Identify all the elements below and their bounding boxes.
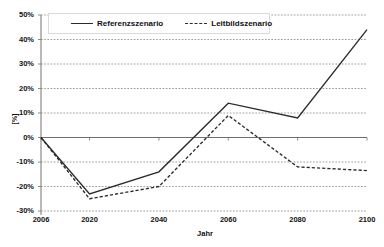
series-line-1: [41, 30, 367, 194]
y-tick-text: 40%: [4, 35, 34, 44]
y-tick-label: 10%: [4, 108, 34, 117]
legend-item-leitbildszenario: Leitbildszenario: [185, 19, 272, 28]
legend-label-leitbildszenario: Leitbildszenario: [211, 19, 272, 28]
y-tick-label: 30%: [4, 59, 34, 68]
line-chart: [%] Referenzszenario Leitbildszenario 50…: [0, 0, 384, 247]
x-tick-text: 2100: [347, 215, 384, 224]
x-tick-text: 2080: [278, 215, 318, 224]
x-tick-text: 2020: [70, 215, 110, 224]
x-tick-text: 2006: [21, 215, 61, 224]
dashed-line-icon: [185, 20, 207, 27]
x-tick-label: 2040: [139, 215, 179, 225]
legend-item-referenzszenario: Referenzszenario: [71, 19, 163, 28]
y-tick-text: 20%: [4, 84, 34, 93]
x-tick-text: 2060: [208, 215, 248, 224]
x-tick-label: 2080: [278, 215, 318, 225]
y-tick-text: -10%: [4, 157, 34, 166]
y-tick-text: -30%: [4, 206, 34, 215]
y-tick-label: -20%: [4, 182, 34, 191]
x-tick-text: 2040: [139, 215, 179, 224]
x-axis-title: Jahr: [40, 229, 370, 238]
y-tick-label: 20%: [4, 84, 34, 93]
legend-label-referenzszenario: Referenzszenario: [97, 19, 163, 28]
plot-area: [0, 0, 384, 247]
y-tick-text: 10%: [4, 108, 34, 117]
y-tick-text: 0%: [4, 133, 34, 142]
y-tick-label: 50%: [4, 10, 34, 19]
x-tick-label: 2100: [347, 215, 384, 225]
y-tick-label: 0%: [4, 133, 34, 142]
y-tick-label: 40%: [4, 35, 34, 44]
x-tick-label: 2020: [70, 215, 110, 225]
y-tick-text: 50%: [4, 10, 34, 19]
x-tick-label: 2060: [208, 215, 248, 225]
y-tick-label: -10%: [4, 157, 34, 166]
legend: Referenzszenario Leitbildszenario: [48, 13, 270, 34]
x-tick-label: 2006: [21, 215, 61, 225]
y-tick-text: -20%: [4, 182, 34, 191]
y-tick-text: 30%: [4, 59, 34, 68]
y-tick-label: -30%: [4, 206, 34, 215]
solid-line-icon: [71, 20, 93, 27]
